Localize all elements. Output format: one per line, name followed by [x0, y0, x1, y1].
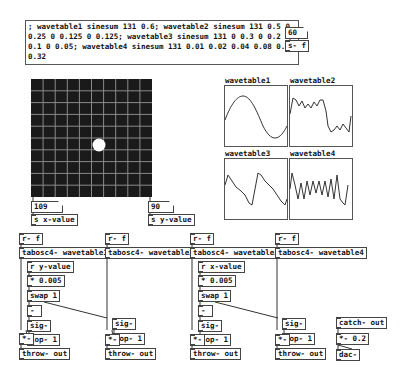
sinesum-message-box[interactable]: ; wavetable1 sinesum 131 0.6; wavetable2… [25, 20, 299, 65]
voice1-receive-y-value[interactable]: r y-value [27, 261, 74, 273]
voice1-sig[interactable]: sig- [27, 320, 51, 332]
voice1-multiply[interactable]: * 0.005 [27, 275, 65, 287]
voice2-tabosc4[interactable]: tabosc4- wavetable2 [105, 247, 197, 259]
voice4-throw[interactable]: throw- out [275, 348, 326, 360]
x-value-number-box[interactable]: 109 [31, 201, 63, 213]
voice4-receive-f[interactable]: r- f [275, 233, 299, 245]
voice1-tabosc4[interactable]: tabosc4- wavetable1 [19, 247, 111, 259]
voice4-tabosc4[interactable]: tabosc4- wavetable4 [275, 247, 367, 259]
voice3-receive-x-value[interactable]: r x-value [198, 261, 245, 273]
send-frequency-object[interactable]: s- f [285, 40, 309, 52]
send-x-value-object[interactable]: s x-value [31, 214, 78, 226]
voice3-times[interactable]: *- [190, 334, 205, 346]
voice2-sig[interactable]: sig- [112, 318, 136, 330]
array-graph-wavetable1[interactable] [224, 85, 288, 147]
array-graph-wavetable4[interactable] [289, 158, 353, 220]
voice3-tabosc4[interactable]: tabosc4- wavetable3 [190, 247, 282, 259]
voice3-sig[interactable]: sig- [198, 320, 222, 332]
voice1-swap[interactable]: swap 1 [27, 290, 60, 302]
waveform-wavetable4 [290, 159, 352, 219]
waveform-wavetable1 [225, 86, 287, 146]
array-label-wavetable3: wavetable3 [225, 149, 270, 158]
waveform-wavetable3 [225, 159, 287, 219]
array-graph-wavetable3[interactable] [224, 158, 288, 220]
voice2-receive-f[interactable]: r- f [105, 233, 129, 245]
voice1-minus[interactable]: - [27, 305, 42, 317]
array-label-wavetable2: wavetable2 [290, 76, 335, 85]
voice3-swap[interactable]: swap 1 [198, 290, 231, 302]
voice2-times[interactable]: *- [105, 334, 120, 346]
voice1-throw[interactable]: throw- out [19, 348, 70, 360]
dac-object[interactable]: dac- [336, 349, 360, 361]
catch-out-object[interactable]: catch- out [336, 317, 387, 329]
array-label-wavetable1: wavetable1 [225, 76, 270, 85]
voice3-minus[interactable]: - [198, 305, 213, 317]
voice4-sig[interactable]: sig- [282, 318, 306, 330]
send-y-value-object[interactable]: s y-value [148, 214, 195, 226]
xy-cursor-dot [93, 139, 106, 152]
voice3-receive-f[interactable]: r- f [190, 233, 214, 245]
gain-multiply-object[interactable]: *- 0.2 [336, 333, 369, 345]
xy-grid-pad[interactable] [31, 79, 152, 197]
frequency-number-box[interactable]: 60 [285, 27, 308, 39]
voice4-times[interactable]: *- [275, 334, 290, 346]
y-value-number-box[interactable]: 90 [148, 201, 174, 213]
voice1-receive-f[interactable]: r- f [19, 233, 43, 245]
voice3-multiply[interactable]: * 0.005 [198, 275, 236, 287]
waveform-wavetable2 [290, 86, 352, 146]
array-graph-wavetable2[interactable] [289, 85, 353, 147]
array-label-wavetable4: wavetable4 [290, 149, 335, 158]
voice1-multiply-signal[interactable]: *- [19, 333, 34, 345]
voice3-throw[interactable]: throw- out [190, 348, 241, 360]
voice2-throw[interactable]: throw- out [105, 348, 156, 360]
grid-lines [31, 79, 152, 197]
